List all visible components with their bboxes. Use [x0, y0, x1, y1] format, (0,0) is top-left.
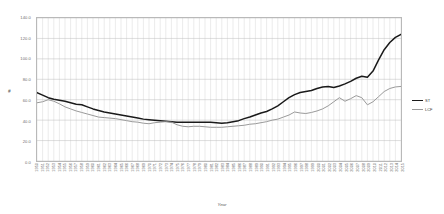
x-tick-label: 1961	[96, 163, 101, 172]
x-tick-label: 1969	[141, 163, 146, 172]
x-tick-label: 1965	[119, 163, 124, 172]
x-tick-label: 1962	[102, 163, 107, 172]
x-tick-label: 1998	[304, 163, 309, 172]
x-tick-label: 2008	[361, 163, 366, 172]
x-tick-label: 1954	[57, 163, 62, 172]
x-tick-label: 2012	[383, 163, 388, 172]
x-tick-label: 2003	[332, 163, 337, 172]
y-tick-label: 100.0	[20, 56, 31, 61]
x-tick-label: 1970	[147, 163, 152, 172]
x-tick-label: 2005	[344, 163, 349, 172]
y-axis-tick-labels: 140.0120.0100.080.060.040.020.00.0	[0, 17, 34, 162]
x-tick-label: 1950	[34, 163, 39, 172]
x-tick-label: 1980	[203, 163, 208, 172]
legend-item[interactable]: LCF	[412, 105, 444, 114]
line-chart: 140.0120.0100.080.060.040.020.00.0 # 195…	[0, 0, 444, 214]
y-tick-label: 40.0	[23, 118, 31, 123]
x-tick-label: 1957	[73, 163, 78, 172]
x-axis-title: Year	[0, 202, 444, 207]
x-tick-label: 2015	[400, 163, 405, 172]
x-tick-label: 1992	[271, 163, 276, 172]
x-tick-label: 2014	[394, 163, 399, 172]
legend-line-swatch	[412, 109, 423, 110]
x-tick-label: 1977	[186, 163, 191, 172]
x-tick-label: 1989	[254, 163, 259, 172]
x-tick-label: 1963	[107, 163, 112, 172]
x-tick-label: 1967	[130, 163, 135, 172]
y-axis-title: #	[8, 89, 11, 94]
x-tick-label: 1968	[135, 163, 140, 172]
y-tick-label: 20.0	[23, 139, 31, 144]
x-tick-label: 2001	[321, 163, 326, 172]
x-tick-label: 1990	[259, 163, 264, 172]
x-tick-label: 2007	[355, 163, 360, 172]
x-tick-label: 1959	[85, 163, 90, 172]
x-tick-label: 1952	[45, 163, 50, 172]
x-tick-label: 1966	[124, 163, 129, 172]
x-tick-label: 1979	[197, 163, 202, 172]
x-tick-label: 1958	[79, 163, 84, 172]
series-line	[37, 34, 401, 123]
x-tick-label: 1978	[192, 163, 197, 172]
y-tick-label: 140.0	[20, 15, 31, 20]
x-tick-label: 2009	[366, 163, 371, 172]
x-tick-label: 1973	[164, 163, 169, 172]
x-tick-label: 1996	[293, 163, 298, 172]
x-tick-label: 1964	[113, 163, 118, 172]
y-tick-label: 60.0	[23, 97, 31, 102]
x-tick-label: 2000	[316, 163, 321, 172]
y-tick-label: 0.0	[25, 160, 31, 165]
x-tick-label: 2013	[389, 163, 394, 172]
x-tick-label: 1984	[225, 163, 230, 172]
x-tick-label: 1972	[158, 163, 163, 172]
legend-label: LCF	[425, 107, 433, 112]
x-tick-label: 2010	[372, 163, 377, 172]
x-tick-label: 1987	[242, 163, 247, 172]
x-tick-label: 1974	[169, 163, 174, 172]
x-tick-label: 1951	[40, 163, 45, 172]
x-tick-label: 1971	[152, 163, 157, 172]
x-tick-label: 1981	[209, 163, 214, 172]
x-tick-label: 1993	[276, 163, 281, 172]
x-tick-label: 1988	[248, 163, 253, 172]
data-series-layer	[37, 18, 401, 161]
x-tick-label: 1982	[214, 163, 219, 172]
x-axis-tick-labels: 1950195119521953195419551956195719581959…	[36, 163, 402, 201]
x-tick-label: 1953	[51, 163, 56, 172]
x-tick-label: 1985	[231, 163, 236, 172]
y-tick-label: 120.0	[20, 35, 31, 40]
chart-legend: STLCF	[412, 96, 444, 114]
x-tick-label: 1999	[310, 163, 315, 172]
x-tick-label: 2011	[378, 163, 383, 171]
x-tick-label: 2006	[349, 163, 354, 172]
x-tick-label: 2004	[338, 163, 343, 172]
x-tick-label: 1991	[265, 163, 270, 172]
x-tick-label: 1986	[237, 163, 242, 172]
series-line	[37, 86, 401, 127]
plot-area	[36, 17, 402, 162]
legend-label: ST	[425, 98, 430, 103]
x-tick-label: 1960	[90, 163, 95, 172]
x-tick-label: 1955	[62, 163, 67, 172]
legend-item[interactable]: ST	[412, 96, 444, 105]
y-tick-label: 80.0	[23, 77, 31, 82]
x-tick-label: 1976	[180, 163, 185, 172]
x-tick-label: 1997	[299, 163, 304, 172]
legend-line-swatch	[412, 100, 423, 101]
x-tick-label: 1995	[287, 163, 292, 172]
